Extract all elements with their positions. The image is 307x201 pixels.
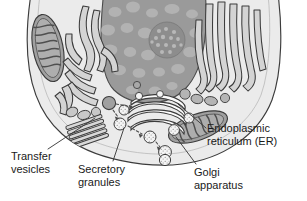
label-secretory-granules: Secretory granules [78,163,125,188]
label-golgi-apparatus-line2: apparatus [194,179,243,192]
cell-diagram-figure: Transfer vesicles Secretory granules Gol… [0,0,307,201]
label-transfer-vesicles-line2: vesicles [11,163,52,176]
label-golgi-apparatus-line1: Golgi [194,166,243,179]
nucleolus [149,22,185,58]
secretion-pore [159,154,170,165]
label-endoplasmic-reticulum: Endoplasmic reticulum (ER) [207,122,277,147]
secreted-particles [145,167,177,196]
label-secretory-granules-line1: Secretory [78,163,125,176]
label-golgi-apparatus: Golgi apparatus [194,166,243,191]
label-secretory-granules-line2: granules [78,176,125,189]
label-transfer-vesicles: Transfer vesicles [11,150,52,175]
label-transfer-vesicles-line1: Transfer [11,150,52,163]
label-endoplasmic-reticulum-line2: reticulum (ER) [207,135,277,148]
label-endoplasmic-reticulum-line1: Endoplasmic [207,122,277,135]
